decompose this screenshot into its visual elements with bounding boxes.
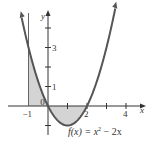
y-axis-label: y xyxy=(40,11,45,21)
function-label: f(x) = x2 − 2x xyxy=(68,126,122,138)
svg-text:3: 3 xyxy=(52,43,57,53)
svg-text:−1: −1 xyxy=(23,109,33,119)
function-plot: −102413 y x f(x) = x2 − 2x xyxy=(0,0,149,148)
svg-text:1: 1 xyxy=(52,82,57,92)
x-axis-label: x xyxy=(139,105,144,115)
shaded-area xyxy=(29,48,88,126)
svg-text:2: 2 xyxy=(84,109,89,119)
svg-text:4: 4 xyxy=(123,109,128,119)
svg-text:0: 0 xyxy=(40,97,45,107)
